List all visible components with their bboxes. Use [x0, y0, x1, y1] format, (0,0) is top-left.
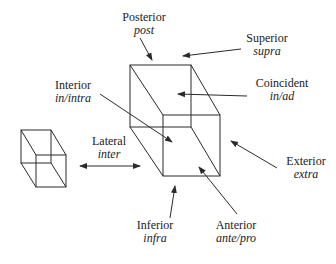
arrow-exterior — [231, 141, 277, 168]
arrow-anterior — [199, 167, 237, 214]
label-anterior: Anterior ante/pro — [208, 219, 264, 245]
arrow-posterior — [140, 38, 152, 60]
label-superior: Superior supra — [237, 32, 297, 58]
label-interior: Interior in/intra — [48, 79, 98, 105]
arrow-superior — [183, 49, 241, 56]
label-inferior: Inferior infra — [130, 219, 180, 245]
arrow-coincident — [178, 94, 247, 96]
label-lateral: Lateral inter — [84, 135, 134, 161]
label-posterior: Posterior post — [116, 11, 172, 37]
main-cube — [130, 65, 220, 176]
small-cube — [21, 130, 66, 187]
label-exterior: Exterior extra — [278, 155, 334, 181]
arrow-inferior — [170, 186, 175, 218]
label-coincident: Coincident in/ad — [246, 77, 318, 103]
